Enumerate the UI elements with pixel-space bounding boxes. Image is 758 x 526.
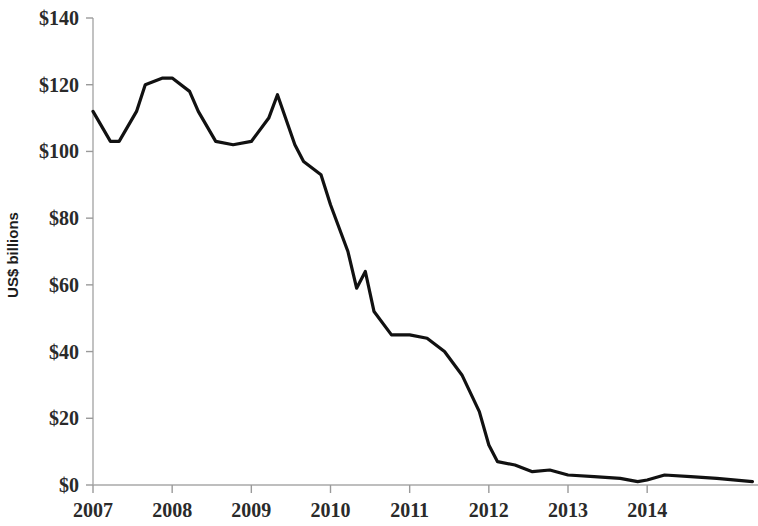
x-tick-label: 2012 xyxy=(469,499,509,521)
x-tick-label: 2013 xyxy=(548,499,588,521)
y-tick-label: $20 xyxy=(49,407,79,429)
y-axis-group: $0$20$40$60$80$100$120$140 xyxy=(39,7,93,496)
x-tick-label: 2011 xyxy=(390,499,429,521)
data-series-line xyxy=(93,78,752,482)
y-tick-label: $100 xyxy=(39,140,79,162)
y-axis-tick-labels: $0$20$40$60$80$100$120$140 xyxy=(39,7,79,496)
x-tick-label: 2007 xyxy=(73,499,113,521)
y-tick-label: $60 xyxy=(49,274,79,296)
x-axis-tick-labels: 20072008200920102011201220132014 xyxy=(73,499,667,521)
x-tick-label: 2009 xyxy=(231,499,271,521)
y-tick-label: $0 xyxy=(59,474,79,496)
y-tick-label: $80 xyxy=(49,207,79,229)
y-axis-title: US$ billions xyxy=(4,212,21,298)
y-tick-label: $120 xyxy=(39,74,79,96)
line-chart: $0$20$40$60$80$100$120$140 2007200820092… xyxy=(0,0,758,526)
x-axis-ticks xyxy=(93,485,647,493)
x-tick-label: 2010 xyxy=(311,499,351,521)
x-tick-label: 2008 xyxy=(152,499,192,521)
y-tick-label: $40 xyxy=(49,341,79,363)
chart-container: $0$20$40$60$80$100$120$140 2007200820092… xyxy=(0,0,758,526)
x-axis-group: 20072008200920102011201220132014 xyxy=(73,485,758,521)
y-axis-ticks xyxy=(86,18,93,485)
y-tick-label: $140 xyxy=(39,7,79,29)
x-tick-label: 2014 xyxy=(627,499,667,521)
